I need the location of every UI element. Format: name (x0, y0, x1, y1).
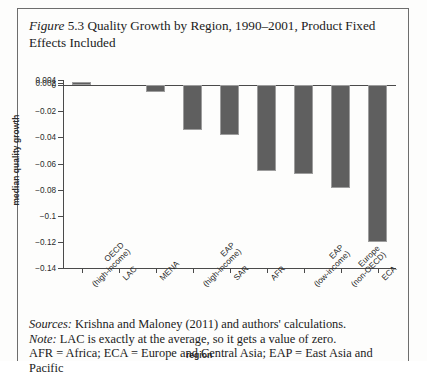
bar (146, 85, 166, 92)
bar (72, 82, 92, 86)
y-axis-tick-label: −0.02 (0, 107, 63, 116)
x-axis-tick-mark (341, 268, 342, 273)
notes-abbrev-line: AFR = Africa; ECA = Europe and Central A… (29, 346, 401, 375)
y-axis-tick-mark (58, 242, 63, 243)
y-axis-tick-label: −0.04 (0, 133, 63, 142)
bar (331, 85, 351, 188)
notes-sources-lead: Sources: (29, 317, 72, 331)
notes-note-text: LAC is exactly at the average, so it get… (57, 332, 337, 346)
y-axis-tick-label: −0.14 (0, 264, 63, 273)
y-axis-tick-mark (58, 164, 63, 165)
quality-growth-bar-chart: median quality growth 0.0040.0020−0.02−0… (0, 60, 427, 310)
notes-note-lead: Note: (29, 332, 57, 346)
x-axis-tick-mark (119, 268, 120, 273)
x-axis-tick-mark (82, 268, 83, 273)
caption-number: 5.3 (68, 18, 84, 33)
page-border-top (17, 8, 409, 9)
figure-notes: Sources: Krishna and Maloney (2011) and … (29, 317, 401, 375)
y-axis-tick-label: 0 (0, 81, 63, 90)
notes-sources-text: Krishna and Maloney (2011) and authors' … (72, 317, 346, 331)
x-axis-tick-mark (378, 268, 379, 273)
bar (220, 85, 240, 135)
y-axis-line (63, 80, 64, 268)
figure-caption: Figure 5.3 Quality Growth by Region, 199… (29, 18, 395, 51)
y-axis-tick-mark (58, 137, 63, 138)
y-axis-tick-label: −0.08 (0, 185, 63, 194)
notes-sources-line: Sources: Krishna and Maloney (2011) and … (29, 317, 401, 332)
y-axis-tick-label: −0.06 (0, 159, 63, 168)
caption-figure-word: Figure (29, 18, 64, 33)
bar (294, 85, 314, 174)
bar (368, 85, 388, 242)
y-axis-tick-mark (58, 216, 63, 217)
y-axis-tick-label: −0.12 (0, 237, 63, 246)
x-axis-tick-mark (156, 268, 157, 273)
bar (257, 85, 277, 171)
x-axis-tick-mark (230, 268, 231, 273)
y-axis-tick-mark (58, 85, 63, 86)
notes-note-line: Note: LAC is exactly at the average, so … (29, 332, 401, 347)
bar (183, 85, 203, 130)
y-axis-tick-label: −0.1 (0, 211, 63, 220)
x-axis-tick-mark (304, 268, 305, 273)
y-axis-tick-mark (58, 111, 63, 112)
y-axis-tick-mark (58, 190, 63, 191)
y-axis-tick-mark (58, 268, 63, 269)
x-axis-tick-mark (193, 268, 194, 273)
x-axis-tick-mark (267, 268, 268, 273)
